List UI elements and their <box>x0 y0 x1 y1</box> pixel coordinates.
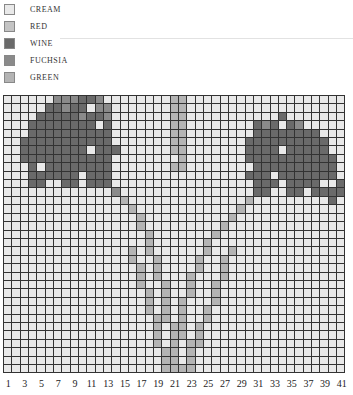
grid-cell <box>87 365 95 373</box>
grid-cell <box>279 104 287 112</box>
grid-cell <box>329 172 337 180</box>
grid-cell <box>62 365 70 373</box>
grid-cell <box>229 281 237 289</box>
grid-cell <box>254 365 262 373</box>
legend-label: GREEN <box>30 73 59 82</box>
grid-cell <box>12 256 20 264</box>
grid-cell <box>46 298 54 306</box>
grid-cell <box>179 172 187 180</box>
grid-cell <box>112 180 120 188</box>
grid-cell <box>71 163 79 171</box>
grid-cell <box>329 348 337 356</box>
grid-cell <box>54 155 62 163</box>
grid-cell <box>262 298 270 306</box>
grid-cell <box>262 365 270 373</box>
grid-cell <box>229 188 237 196</box>
grid-cell <box>146 289 154 297</box>
color-swatch <box>4 4 15 15</box>
grid-cell <box>87 340 95 348</box>
grid-cell <box>229 348 237 356</box>
grid-cell <box>221 205 229 213</box>
grid-cell <box>320 214 328 222</box>
grid-cell <box>279 247 287 255</box>
grid-cell <box>137 340 145 348</box>
grid-cell <box>71 121 79 129</box>
grid-cell <box>295 96 303 104</box>
grid-cell <box>254 264 262 272</box>
grid-cell <box>121 188 129 196</box>
grid-cell <box>337 315 345 323</box>
grid-cell <box>246 306 254 314</box>
grid-cell <box>54 197 62 205</box>
grid-cell <box>137 298 145 306</box>
grid-cell <box>104 205 112 213</box>
grid-cell <box>237 188 245 196</box>
grid-cell <box>337 222 345 230</box>
grid-cell <box>204 281 212 289</box>
grid-cell <box>287 315 295 323</box>
grid-cell <box>79 96 87 104</box>
grid-cell <box>229 256 237 264</box>
grid-cell <box>179 315 187 323</box>
grid-cell <box>96 239 104 247</box>
grid-cell <box>196 340 204 348</box>
grid-cell <box>221 298 229 306</box>
grid-cell <box>29 273 37 281</box>
grid-cell <box>212 264 220 272</box>
grid-cell <box>246 180 254 188</box>
grid-cell <box>204 239 212 247</box>
grid-cell <box>62 205 70 213</box>
axis-tick-label: 33 <box>270 378 280 389</box>
grid-cell <box>229 323 237 331</box>
grid-cell <box>221 331 229 339</box>
grid-cell <box>4 180 12 188</box>
grid-cell <box>146 104 154 112</box>
grid-cell <box>229 155 237 163</box>
grid-cell <box>154 315 162 323</box>
grid-cell <box>29 180 37 188</box>
grid-cell <box>254 357 262 365</box>
grid-cell <box>237 357 245 365</box>
grid-cell <box>212 163 220 171</box>
grid-cell <box>304 256 312 264</box>
grid-cell <box>295 138 303 146</box>
grid-cell <box>96 247 104 255</box>
grid-cell <box>254 348 262 356</box>
grid-cell <box>137 130 145 138</box>
grid-cell <box>46 239 54 247</box>
grid-cell <box>79 138 87 146</box>
grid-cell <box>112 138 120 146</box>
grid-cell <box>254 197 262 205</box>
grid-cell <box>62 357 70 365</box>
grid-cell <box>154 121 162 129</box>
grid-cell <box>246 113 254 121</box>
grid-cell <box>12 247 20 255</box>
grid-cell <box>54 281 62 289</box>
grid-cell <box>37 172 45 180</box>
grid-cell <box>104 357 112 365</box>
grid-cell <box>262 163 270 171</box>
grid-cell <box>271 231 279 239</box>
grid-cell <box>221 239 229 247</box>
grid-cell <box>287 155 295 163</box>
grid-cell <box>254 146 262 154</box>
grid-cell <box>79 113 87 121</box>
grid-cell <box>137 306 145 314</box>
grid-cell <box>271 138 279 146</box>
grid-cell <box>137 315 145 323</box>
grid-cell <box>337 306 345 314</box>
grid-cell <box>154 172 162 180</box>
grid-cell <box>287 163 295 171</box>
grid-cell <box>187 121 195 129</box>
grid-cell <box>121 306 129 314</box>
grid-cell <box>129 365 137 373</box>
grid-cell <box>204 222 212 230</box>
grid-cell <box>79 163 87 171</box>
grid-cell <box>46 146 54 154</box>
grid-cell <box>204 357 212 365</box>
grid-cell <box>196 281 204 289</box>
grid-cell <box>262 357 270 365</box>
grid-cell <box>12 96 20 104</box>
grid-cell <box>237 331 245 339</box>
grid-cell <box>279 357 287 365</box>
